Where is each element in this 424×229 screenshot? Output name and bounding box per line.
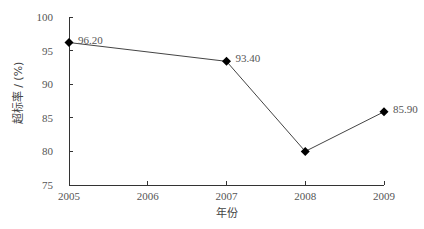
x-ticks: 20052006200720082009	[58, 181, 396, 202]
x-axis-title: 年份	[216, 206, 238, 220]
y-tick-label: 100	[37, 11, 54, 23]
y-tick-label: 85	[42, 112, 54, 124]
x-tick-label: 2005	[58, 190, 81, 202]
x-tick-label: 2006	[137, 190, 160, 202]
line-chart: 7580859095100 20052006200720082009 96.20…	[0, 0, 424, 229]
x-tick-label: 2007	[216, 190, 239, 202]
y-tick-label: 95	[42, 45, 54, 57]
y-ticks: 7580859095100	[37, 11, 74, 191]
y-axis-title: 超标率 / (%)	[11, 62, 25, 125]
y-tick-label: 80	[42, 145, 54, 157]
data-label: 96.20	[78, 34, 103, 46]
axes	[69, 17, 384, 185]
x-tick-label: 2009	[373, 190, 396, 202]
series: 96.2093.4085.90	[65, 34, 419, 156]
data-label: 93.40	[236, 52, 261, 64]
data-point-marker	[65, 38, 74, 47]
x-tick-label: 2008	[294, 190, 317, 202]
y-tick-label: 90	[42, 78, 54, 90]
data-point-marker	[380, 107, 389, 116]
y-tick-label: 75	[42, 179, 54, 191]
data-label: 85.90	[393, 103, 418, 115]
